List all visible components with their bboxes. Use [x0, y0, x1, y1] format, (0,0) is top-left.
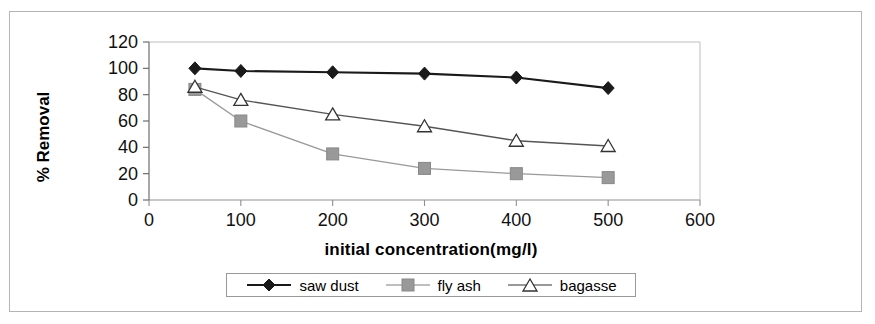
x-axis-title: initial concentration(mg/l)	[236, 240, 626, 260]
x-tick-label-500: 500	[593, 210, 623, 230]
filled-diamond-icon	[245, 277, 293, 293]
y-axis-title: % Removal	[34, 77, 54, 197]
legend-label-saw-dust: saw dust	[296, 277, 358, 294]
legend-label-fly-ash: fly ash	[435, 277, 481, 294]
x-tick-label-400: 400	[501, 210, 531, 230]
data-point-saw-dust-400[interactable]	[510, 71, 522, 84]
chart-legend: saw dust fly ash bagasse	[226, 273, 636, 297]
y-tick-label-100: 100	[108, 58, 138, 78]
open-triangle-icon	[506, 277, 554, 293]
filled-square-icon	[384, 277, 432, 293]
data-point-fly-ash-500[interactable]	[602, 172, 614, 184]
legend-label-bagasse: bagasse	[557, 277, 617, 294]
data-point-saw-dust-100[interactable]	[235, 64, 247, 77]
y-tick-label-40: 40	[118, 137, 138, 157]
data-point-fly-ash-200[interactable]	[327, 148, 339, 160]
data-point-fly-ash-100[interactable]	[235, 115, 247, 127]
x-tick-label-300: 300	[409, 210, 439, 230]
legend-item-fly-ash[interactable]: fly ash	[384, 277, 481, 294]
legend-item-saw-dust[interactable]: saw dust	[245, 277, 358, 294]
data-point-saw-dust-50[interactable]	[189, 62, 201, 75]
legend-item-bagasse[interactable]: bagasse	[506, 277, 617, 294]
data-point-saw-dust-200[interactable]	[327, 66, 339, 79]
chart-figure: 0204060801001200100200300400500600 % Rem…	[0, 0, 875, 324]
data-point-bagasse-100[interactable]	[234, 93, 248, 105]
data-point-saw-dust-500[interactable]	[602, 82, 614, 95]
data-point-saw-dust-300[interactable]	[419, 67, 431, 80]
data-point-fly-ash-300[interactable]	[419, 162, 431, 174]
x-tick-label-0: 0	[144, 210, 154, 230]
x-tick-label-600: 600	[685, 210, 715, 230]
y-tick-label-60: 60	[118, 111, 138, 131]
data-point-fly-ash-400[interactable]	[510, 168, 522, 180]
y-tick-label-80: 80	[118, 85, 138, 105]
x-tick-label-200: 200	[318, 210, 348, 230]
series-line-saw-dust	[195, 68, 608, 88]
y-tick-label-20: 20	[118, 164, 138, 184]
x-tick-label-100: 100	[226, 210, 256, 230]
y-tick-label-120: 120	[108, 32, 138, 52]
series-line-bagasse	[195, 87, 608, 146]
y-tick-label-0: 0	[128, 190, 138, 210]
